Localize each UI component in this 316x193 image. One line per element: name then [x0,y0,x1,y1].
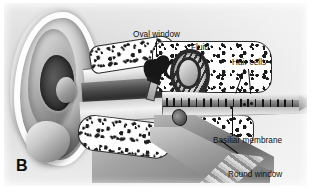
panel-letter: B [16,158,28,174]
label-basiliar-membrane: Basiliar membrane [213,137,282,145]
label-fluid: Fluid [191,44,209,52]
hair-cell-marker [250,102,253,105]
label-oval-window: Oval window [133,31,180,39]
cochlea-coil-inner [176,57,201,89]
illustration-plate: Oval window Fluid Hair cells Basiliar me… [4,3,307,186]
basiliar-membrane-leader-line [232,107,233,136]
label-hair-cells: Hair cells [232,59,266,67]
ear-anatomy-figure: Oval window Fluid Hair cells Basiliar me… [0,0,316,193]
tragus [56,77,76,103]
oval-window-leader-line [156,41,157,54]
hair-cell-marker [243,103,246,106]
fluid-leader-line [200,54,201,62]
label-round-window: Round window [228,171,282,179]
